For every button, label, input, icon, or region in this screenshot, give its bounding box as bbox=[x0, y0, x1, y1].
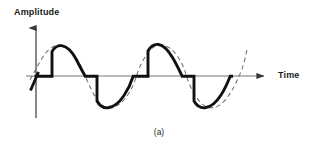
x-axis-label-time: Time bbox=[278, 71, 299, 80]
y-axis-label-amplitude: Amplitude bbox=[14, 8, 59, 17]
figure-caption: (a) bbox=[0, 128, 318, 137]
waveform-figure: Amplitude Time (a) bbox=[0, 0, 318, 160]
